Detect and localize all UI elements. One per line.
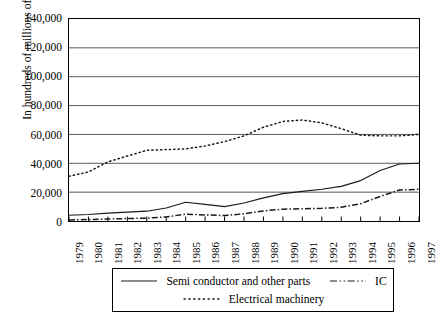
- x-axis-tick-1987: 1987: [230, 222, 241, 264]
- x-axis-tick-1986: 1986: [210, 222, 221, 264]
- x-axis-tick-1980: 1980: [93, 222, 104, 264]
- plot-canvas: [69, 19, 419, 221]
- plot-area: [68, 18, 420, 222]
- x-axis-tick-1983: 1983: [152, 222, 163, 264]
- x-axis-tick-1995: 1995: [386, 222, 397, 264]
- x-axis-tick-1988: 1988: [250, 222, 261, 264]
- y-axis-tick-140000: 140,000: [25, 13, 62, 24]
- dash-dot-line-key: [328, 276, 368, 286]
- legend-row-bottom: Electrical machinery: [113, 289, 393, 309]
- y-axis-tick-80000: 80,000: [30, 100, 62, 111]
- legend-label-semiconductor: Semi conductor and other parts: [166, 275, 310, 287]
- x-axis-tick-1994: 1994: [367, 222, 378, 264]
- x-axis-tick-1981: 1981: [113, 222, 124, 264]
- y-axis-tick-0: 0: [56, 217, 62, 228]
- x-axis-tick-1990: 1990: [289, 222, 300, 264]
- chart-figure: In hundreds of millions of yen 020,00040…: [0, 0, 442, 324]
- x-axis-tick-1989: 1989: [269, 222, 280, 264]
- solid-line-key: [119, 276, 159, 286]
- legend-row-top: Semi conductor and other parts IC: [113, 271, 393, 291]
- series-line-semi-conductor-and-other-parts: [69, 163, 419, 215]
- legend-item-semiconductor: Semi conductor and other parts: [119, 275, 310, 287]
- x-axis-tick-1993: 1993: [347, 222, 358, 264]
- x-axis-tick-labels: 1979198019811982198319841985198619871988…: [68, 222, 420, 268]
- x-axis-tick-1979: 1979: [74, 222, 85, 264]
- legend-label-ic: IC: [375, 275, 387, 287]
- x-axis-tick-1996: 1996: [406, 222, 417, 264]
- x-axis-tick-1984: 1984: [171, 222, 182, 264]
- y-axis-tick-20000: 20,000: [30, 187, 62, 198]
- x-axis-tick-1982: 1982: [132, 222, 143, 264]
- x-axis-tick-1991: 1991: [308, 222, 319, 264]
- y-axis-tick-labels: 020,00040,00060,00080,000100,000120,0001…: [0, 0, 64, 324]
- dotted-line-key: [182, 294, 222, 304]
- series-line-electrical-machinery: [69, 120, 419, 176]
- y-axis-tick-120000: 120,000: [25, 42, 62, 53]
- series-line-ic: [69, 189, 419, 220]
- y-axis-tick-100000: 100,000: [25, 71, 62, 82]
- legend-label-electrical-machinery: Electrical machinery: [229, 293, 324, 305]
- x-axis-tick-1997: 1997: [426, 222, 437, 264]
- legend-item-electrical-machinery: Electrical machinery: [182, 293, 324, 305]
- legend-item-ic: IC: [328, 275, 387, 287]
- x-axis-tick-1985: 1985: [191, 222, 202, 264]
- x-axis-tick-1992: 1992: [328, 222, 339, 264]
- y-axis-tick-40000: 40,000: [30, 158, 62, 169]
- chart-legend: Semi conductor and other parts IC Electr: [112, 268, 394, 312]
- y-axis-tick-60000: 60,000: [30, 129, 62, 140]
